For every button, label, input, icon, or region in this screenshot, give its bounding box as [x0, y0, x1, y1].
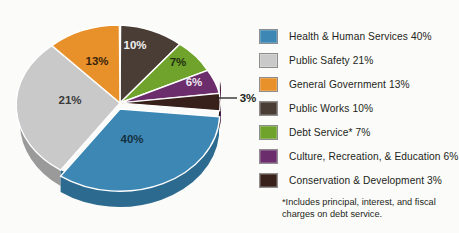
- slice-label-debt-service: 7%: [170, 56, 187, 68]
- legend-label-culture-recreation-education: Culture, Recreation, & Education 6%: [289, 151, 459, 162]
- legend-swatch-culture-recreation-education: [259, 149, 278, 164]
- legend-item-culture-recreation-education[interactable]: Culture, Recreation, & Education 6%: [259, 144, 447, 168]
- chart-footnote: *Includes principal, interest, and fisca…: [282, 196, 448, 221]
- legend-swatch-public-safety: [259, 53, 278, 68]
- slice-label-public-safety: 21%: [58, 94, 81, 106]
- legend-label-public-safety: Public Safety 21%: [289, 55, 373, 66]
- legend-label-public-works: Public Works 10%: [289, 103, 373, 114]
- legend-swatch-health-human-services: [259, 29, 278, 44]
- legend-label-general-government: General Government 13%: [289, 79, 410, 90]
- legend-item-debt-service[interactable]: Debt Service* 7%: [259, 120, 447, 144]
- slice-label-general-government: 13%: [85, 55, 108, 67]
- legend-item-public-works[interactable]: Public Works 10%: [259, 96, 447, 120]
- legend-item-conservation-development[interactable]: Conservation & Development 3%: [259, 168, 447, 192]
- slice-label-culture-recreation-education: 6%: [186, 76, 203, 88]
- legend-swatch-public-works: [259, 101, 278, 116]
- legend-swatch-general-government: [259, 77, 278, 92]
- pie-chart: 10% 7% 6% 3% 40% 21% 13%: [0, 0, 260, 233]
- footnote-line-2: charges on debt service.: [282, 208, 448, 220]
- slice-label-public-works: 10%: [123, 39, 146, 51]
- legend-swatch-debt-service: [259, 125, 278, 140]
- legend-swatch-conservation-development: [259, 173, 278, 188]
- legend-item-health-human-services[interactable]: Health & Human Services 40%: [259, 24, 447, 48]
- legend-label-health-human-services: Health & Human Services 40%: [289, 31, 432, 42]
- footnote-line-1: *Includes principal, interest, and fisca…: [282, 196, 448, 208]
- legend-item-general-government[interactable]: General Government 13%: [259, 72, 447, 96]
- slice-label-health-human-services: 40%: [120, 133, 143, 145]
- legend-label-debt-service: Debt Service* 7%: [289, 127, 370, 138]
- legend-label-conservation-development: Conservation & Development 3%: [289, 175, 442, 186]
- legend-item-public-safety[interactable]: Public Safety 21%: [259, 48, 447, 72]
- slice-label-conservation-development: 3%: [240, 92, 257, 104]
- chart-legend: Health & Human Services 40% Public Safet…: [259, 24, 447, 192]
